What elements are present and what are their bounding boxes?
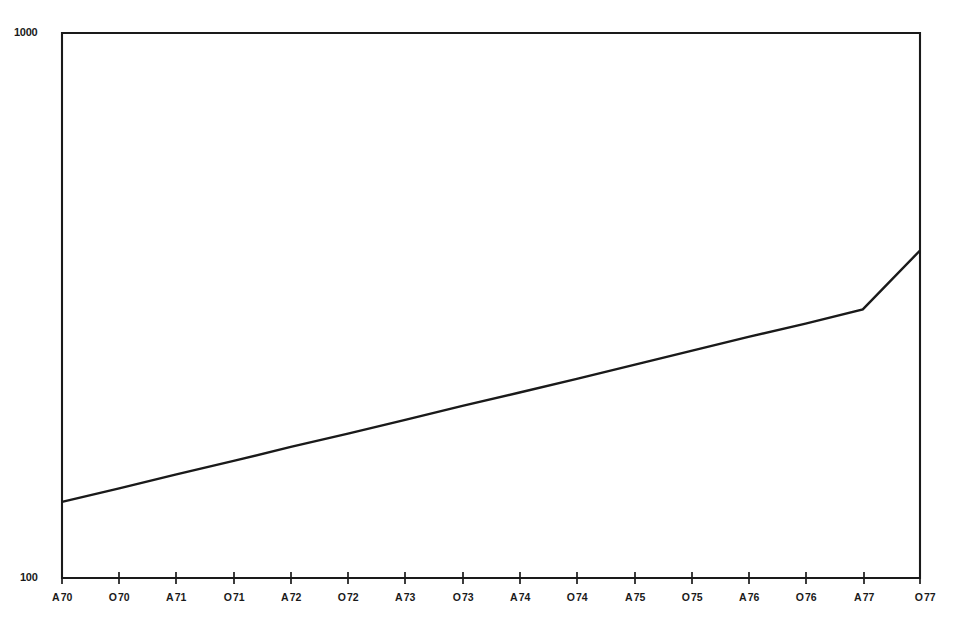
plot-area [0,0,956,625]
data-series-line [62,251,920,502]
axes-frame [62,33,920,578]
y-axis-label-min: 100 [20,572,37,583]
y-axis-label-max: 1000 [14,27,37,38]
chart-figure: 1000 100 A70 O70 A [0,0,956,625]
